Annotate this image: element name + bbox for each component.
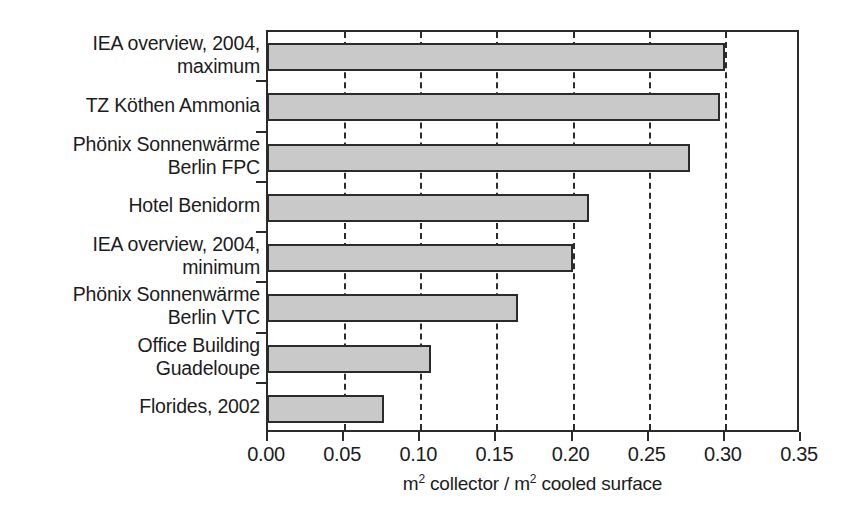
bar (267, 194, 589, 222)
gridline-0.25 (649, 32, 651, 430)
bar (267, 43, 725, 71)
x-axis-tick (799, 432, 801, 441)
x-axis-tick-label: 0.10 (378, 443, 458, 466)
gridline-0.15 (496, 32, 498, 430)
plot-area (266, 30, 799, 432)
y-axis-tick (256, 281, 267, 283)
x-axis-tick (723, 432, 725, 441)
bar (267, 395, 384, 423)
x-axis-tick-label: 0.05 (302, 443, 382, 466)
x-axis-tick (571, 432, 573, 441)
bar (267, 294, 518, 322)
x-axis-tick-label: 0.35 (759, 443, 839, 466)
bar (267, 144, 690, 172)
y-axis-tick (256, 382, 267, 384)
x-axis-tick (647, 432, 649, 441)
x-axis-title-m1: m (403, 473, 419, 494)
y-axis-tick (256, 332, 267, 334)
x-axis-tick (494, 432, 496, 441)
category-label: Florides, 2002 (8, 395, 260, 418)
y-axis-tick (256, 131, 267, 133)
category-label: TZ Köthen Ammonia (8, 94, 260, 117)
gridline-0.30 (725, 32, 727, 430)
category-label: Hotel Benidorm (8, 194, 260, 217)
x-axis-tick-label: 0.20 (531, 443, 611, 466)
category-label: Phönix Sonnenwärme Berlin FPC (8, 133, 260, 179)
category-label: IEA overview, 2004, minimum (8, 233, 260, 279)
category-label: Phönix Sonnenwärme Berlin VTC (8, 283, 260, 329)
y-axis-tick (256, 231, 267, 233)
x-axis-tick (266, 432, 268, 441)
gridline-0.20 (573, 32, 575, 430)
x-axis-tick-label: 0.00 (226, 443, 306, 466)
category-axis: IEA overview, 2004, maximumTZ Köthen Amm… (8, 30, 260, 432)
x-axis-title-end: cooled surface (536, 473, 662, 494)
x-axis-title-mid: collector / m (425, 473, 530, 494)
x-axis-tick-label: 0.30 (683, 443, 763, 466)
bar (267, 244, 573, 272)
category-label: Office Building Guadeloupe (8, 334, 260, 380)
x-axis-tick (342, 432, 344, 441)
category-label: IEA overview, 2004, maximum (8, 32, 260, 78)
x-axis-tick-label: 0.15 (454, 443, 534, 466)
x-axis-title: m2 collector / m2 cooled surface (266, 473, 799, 495)
x-axis-tick-label: 0.25 (607, 443, 687, 466)
y-axis-tick (256, 80, 267, 82)
y-axis-tick (256, 181, 267, 183)
bar (267, 345, 431, 373)
x-axis-tick (418, 432, 420, 441)
bar-chart-figure: IEA overview, 2004, maximumTZ Köthen Amm… (0, 0, 854, 514)
bar (267, 93, 720, 121)
